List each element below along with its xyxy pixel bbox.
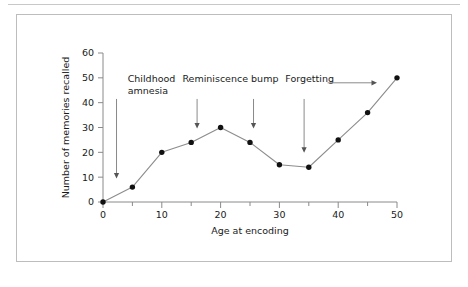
data-point — [247, 140, 252, 145]
data-point — [218, 125, 223, 130]
data-point — [159, 150, 164, 155]
figure-border-box: 0102030405060 01020304050 Number of memo… — [16, 14, 452, 262]
x-tick-label: 30 — [273, 209, 285, 220]
x-axis — [103, 202, 397, 208]
x-axis-title: Age at encoding — [211, 225, 289, 236]
arrowhead-down-icon — [114, 173, 119, 179]
annotation-childhood-amnesia: Childhoodamnesia — [114, 73, 175, 179]
arrowhead-down-icon — [251, 123, 256, 129]
annotation-label: Childhood — [128, 73, 176, 84]
data-point — [336, 137, 341, 142]
annotation-label: amnesia — [128, 85, 168, 96]
y-axis-title: Number of memories recalled — [60, 57, 71, 199]
x-tick-label: 10 — [156, 209, 168, 220]
memory-recall-line-chart: 0102030405060 01020304050 Number of memo… — [17, 15, 451, 261]
top-rule-divider — [8, 4, 460, 5]
arrowhead-down-icon — [194, 123, 199, 129]
x-tick-label: 40 — [332, 209, 344, 220]
x-tick-label: 20 — [215, 209, 227, 220]
annotation-label: Reminiscence bump — [182, 73, 278, 84]
annotation-reminiscence-bump: Reminiscence bump — [182, 73, 278, 129]
y-axis-tick-labels: 0102030405060 — [82, 47, 94, 207]
x-tick-label: 0 — [100, 209, 106, 220]
y-tick-label: 30 — [82, 122, 94, 133]
arrowhead-right-icon — [372, 80, 378, 85]
y-tick-label: 50 — [82, 72, 94, 83]
figure-root: 0102030405060 01020304050 Number of memo… — [0, 0, 468, 287]
data-point — [130, 184, 135, 189]
y-tick-label: 40 — [82, 97, 94, 108]
x-tick-label: 50 — [391, 209, 403, 220]
annotation-forgetting: Forgetting — [285, 73, 377, 153]
data-point — [100, 199, 105, 204]
annotation-label: Forgetting — [285, 73, 334, 84]
y-tick-label: 20 — [82, 147, 94, 158]
arrowhead-down-icon — [301, 147, 306, 153]
data-point — [306, 165, 311, 170]
data-point — [394, 75, 399, 80]
data-point — [189, 140, 194, 145]
data-point — [277, 162, 282, 167]
y-tick-label: 60 — [82, 47, 94, 58]
x-axis-tick-labels: 01020304050 — [100, 209, 403, 220]
y-tick-label: 10 — [82, 172, 94, 183]
y-axis — [98, 53, 103, 202]
data-point — [365, 110, 370, 115]
y-tick-label: 0 — [88, 196, 94, 207]
